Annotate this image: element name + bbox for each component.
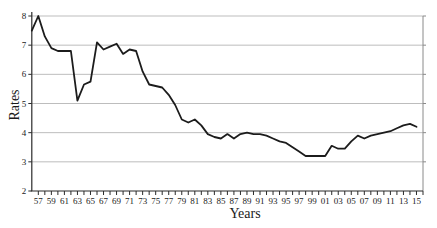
x-tick-label: 67 xyxy=(99,196,109,206)
x-tick-label: 83 xyxy=(203,196,213,206)
x-tick-label: 87 xyxy=(229,196,239,206)
y-tick-label: 3 xyxy=(22,157,27,167)
x-tick-label: 91 xyxy=(256,196,265,206)
x-tick-label: 93 xyxy=(269,196,279,206)
data-line xyxy=(32,16,417,156)
y-axis-title: Rates xyxy=(8,89,22,120)
x-tick-label: 03 xyxy=(334,196,344,206)
x-tick-label: 61 xyxy=(60,196,69,206)
x-tick-label: 01 xyxy=(321,196,330,206)
x-tick-label: 89 xyxy=(242,196,252,206)
plot-svg: 2345678575961636567697173757779818385878… xyxy=(0,0,437,228)
x-tick-label: 15 xyxy=(412,196,422,206)
y-tick-label: 4 xyxy=(22,128,27,138)
y-tick-label: 7 xyxy=(22,40,27,50)
x-axis-title: Years xyxy=(229,207,260,221)
x-tick-label: 85 xyxy=(216,196,226,206)
y-tick-label: 6 xyxy=(22,69,27,79)
x-tick-label: 59 xyxy=(47,196,57,206)
x-tick-label: 71 xyxy=(125,196,134,206)
y-tick-label: 2 xyxy=(22,186,27,196)
x-tick-label: 69 xyxy=(112,196,122,206)
x-tick-label: 13 xyxy=(399,196,409,206)
y-tick-label: 8 xyxy=(22,11,27,21)
x-tick-label: 73 xyxy=(138,196,148,206)
x-tick-label: 11 xyxy=(386,196,395,206)
y-tick-label: 5 xyxy=(22,99,27,109)
x-tick-label: 77 xyxy=(164,196,174,206)
x-tick-label: 07 xyxy=(360,196,370,206)
x-tick-label: 97 xyxy=(295,196,305,206)
x-tick-label: 79 xyxy=(177,196,187,206)
x-tick-label: 95 xyxy=(282,196,292,206)
x-tick-label: 57 xyxy=(34,196,44,206)
x-tick-label: 75 xyxy=(151,196,161,206)
x-tick-label: 09 xyxy=(373,196,383,206)
x-tick-label: 99 xyxy=(308,196,318,206)
x-tick-label: 65 xyxy=(86,196,96,206)
x-tick-label: 81 xyxy=(190,196,199,206)
rates-by-years-line-chart: 2345678575961636567697173757779818385878… xyxy=(0,0,437,228)
x-tick-label: 63 xyxy=(73,196,83,206)
x-tick-label: 05 xyxy=(347,196,357,206)
